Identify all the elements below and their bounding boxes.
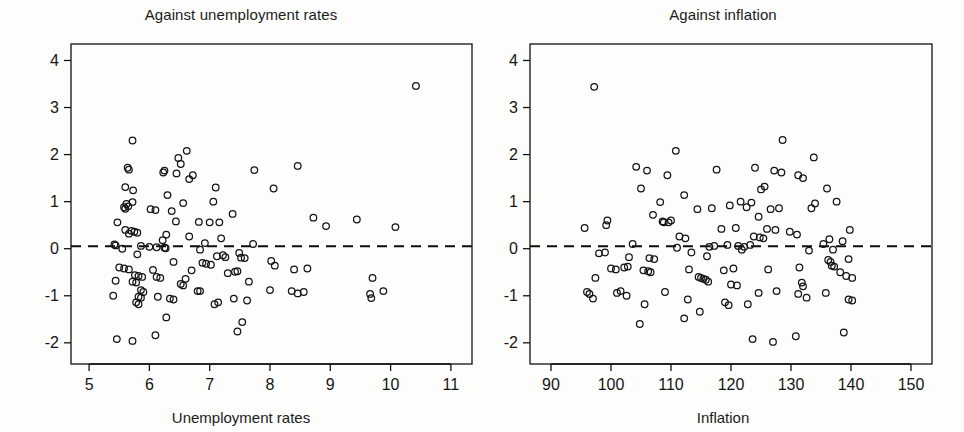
x-tick-label: 130: [778, 376, 805, 393]
data-point: [682, 235, 689, 242]
data-point: [803, 294, 810, 301]
data-point: [581, 225, 588, 232]
data-point: [224, 270, 231, 277]
data-point: [134, 251, 141, 258]
data-point: [591, 84, 598, 91]
x-tick-label: 7: [205, 376, 214, 393]
data-point: [112, 277, 119, 284]
data-point: [745, 301, 752, 308]
data-point: [160, 169, 167, 176]
x-axis-label-inflation: Inflation: [482, 409, 964, 426]
data-point: [122, 184, 129, 191]
data-point: [793, 333, 800, 340]
y-tick-label: 2: [509, 146, 518, 163]
data-point: [771, 167, 778, 174]
data-point: [826, 236, 833, 243]
data-point: [686, 266, 693, 273]
data-point: [755, 213, 762, 220]
data-point: [239, 319, 246, 326]
data-point: [787, 228, 794, 235]
data-point: [747, 242, 754, 249]
x-tick-label: 6: [145, 376, 154, 393]
data-point: [294, 163, 301, 170]
x-tick-label: 5: [85, 376, 94, 393]
y-tick-label: 0: [509, 240, 518, 257]
panel-title-inflation: Against inflation: [482, 6, 964, 23]
data-point: [206, 219, 213, 226]
x-tick-label: 110: [658, 376, 684, 393]
figure-container: Against unemployment rates -2-1012345678…: [0, 0, 964, 432]
data-point: [197, 246, 204, 253]
data-point: [114, 336, 121, 343]
data-point: [354, 216, 361, 223]
data-point: [796, 264, 803, 271]
data-point: [830, 246, 837, 253]
data-point: [188, 267, 195, 274]
data-point: [808, 205, 815, 212]
data-point: [170, 259, 177, 266]
data-point: [657, 199, 664, 206]
data-point: [633, 164, 640, 171]
x-tick-label: 90: [542, 376, 560, 393]
x-tick-label: 9: [326, 376, 335, 393]
data-point: [155, 293, 162, 300]
y-tick-label: 3: [509, 99, 518, 116]
data-point: [323, 223, 330, 230]
data-point: [152, 332, 159, 339]
y-tick-label: 1: [50, 193, 59, 210]
data-point: [773, 288, 780, 295]
data-point: [727, 202, 734, 209]
data-point: [770, 339, 777, 346]
data-point: [841, 329, 848, 336]
data-point: [304, 265, 311, 272]
x-tick-label: 150: [898, 376, 925, 393]
data-point: [367, 291, 374, 298]
data-point: [641, 301, 648, 308]
data-point: [267, 287, 274, 294]
y-tick-label: -1: [45, 287, 59, 304]
data-point: [833, 198, 840, 205]
data-point: [177, 161, 184, 168]
data-point: [129, 338, 136, 345]
data-point: [202, 240, 209, 247]
data-point: [613, 266, 620, 273]
data-point: [413, 83, 420, 90]
y-tick-label: -1: [504, 287, 518, 304]
y-tick-label: 0: [50, 240, 59, 257]
x-tick-label: 10: [382, 376, 400, 393]
x-tick-label: 100: [598, 376, 625, 393]
data-point: [650, 212, 657, 219]
data-point: [129, 137, 136, 144]
x-tick-label: 8: [266, 376, 275, 393]
data-point: [697, 308, 704, 315]
data-point: [592, 275, 599, 282]
data-point: [368, 295, 375, 302]
x-tick-label: 140: [838, 376, 865, 393]
data-point: [681, 315, 688, 322]
data-point: [776, 205, 783, 212]
y-tick-label: 4: [509, 52, 518, 69]
data-point: [173, 218, 180, 225]
data-point: [662, 289, 669, 296]
data-point: [212, 184, 219, 191]
data-point: [272, 262, 279, 269]
data-point: [590, 295, 597, 302]
panel-inflation: Against inflation -2-1012349010011012013…: [482, 0, 964, 432]
data-point: [664, 172, 671, 179]
data-point: [685, 296, 692, 303]
x-tick-label: 11: [443, 376, 460, 393]
data-point: [752, 164, 759, 171]
data-point: [310, 214, 317, 221]
y-tick-label: -2: [45, 334, 59, 351]
data-point: [644, 167, 651, 174]
data-point: [839, 238, 846, 245]
data-point: [824, 185, 831, 192]
data-point: [392, 224, 399, 231]
data-point: [681, 192, 688, 199]
data-point: [778, 169, 785, 176]
data-point: [730, 265, 737, 272]
data-point: [837, 269, 844, 276]
data-point: [183, 148, 190, 155]
data-point: [733, 225, 740, 232]
data-point: [251, 167, 258, 174]
